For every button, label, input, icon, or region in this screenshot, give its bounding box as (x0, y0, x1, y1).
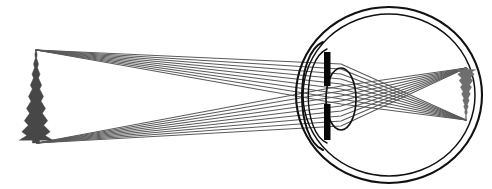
iris-lower-bar (324, 104, 331, 140)
iris-upper-bar (324, 52, 331, 86)
diagram-background (0, 0, 492, 189)
ray-diagram-canvas: Formation of an inverted retinal image b… (0, 0, 492, 189)
diagram-svg (0, 0, 492, 189)
